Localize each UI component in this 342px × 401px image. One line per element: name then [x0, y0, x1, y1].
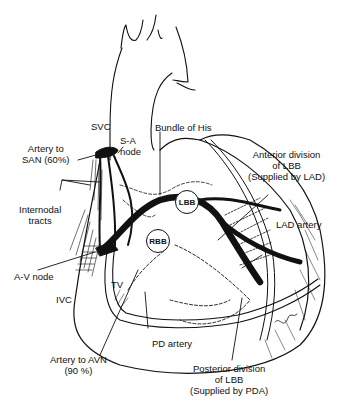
label-rbb-circle: RBB — [146, 229, 170, 253]
label-anterior-division-line3: (Supplied by LAD) — [248, 171, 325, 182]
tricuspid-valve-shading — [115, 290, 128, 307]
label-lad-artery: LAD artery — [276, 219, 321, 230]
label-posterior-division-line1: Posterior division — [190, 363, 268, 374]
label-internodal-line2: tracts — [19, 215, 61, 226]
label-av-node: A-V node — [14, 271, 54, 282]
label-posterior-division-lbb: Posterior division of LBB (Supplied by P… — [190, 363, 268, 396]
label-sa-node-line1: S-A — [120, 135, 141, 146]
label-lbb-circle: LBB — [175, 190, 199, 214]
label-artery-to-san-line1: Artery to — [22, 143, 70, 154]
label-artery-to-avn-line2: (90 %) — [50, 365, 107, 376]
label-artery-to-avn: Artery to AVN (90 %) — [50, 354, 107, 376]
label-svc: SVC — [91, 121, 111, 132]
label-bundle-of-his: Bundle of His — [155, 122, 212, 133]
label-ivc: IVC — [56, 294, 72, 305]
label-artery-to-san: Artery to SAN (60%) — [22, 143, 70, 165]
label-anterior-division-lbb: Anterior division of LBB (Supplied by LA… — [248, 149, 325, 182]
artist-signature — [275, 314, 297, 323]
label-posterior-division-line3: (Supplied by PDA) — [190, 385, 268, 396]
label-tv: TV — [111, 279, 123, 290]
label-anterior-division-line2: of LBB — [248, 160, 325, 171]
label-internodal-line1: Internodal — [19, 204, 61, 215]
label-sa-node-line2: node — [120, 146, 141, 157]
label-posterior-division-line2: of LBB — [190, 374, 268, 385]
label-artery-to-avn-line1: Artery to AVN — [50, 354, 107, 365]
label-pd-artery: PD artery — [152, 338, 192, 349]
label-artery-to-san-line2: SAN (60%) — [22, 154, 70, 165]
label-sa-node: S-A node — [120, 135, 141, 157]
label-anterior-division-line1: Anterior division — [248, 149, 325, 160]
label-internodal-tracts: Internodal tracts — [19, 204, 61, 226]
